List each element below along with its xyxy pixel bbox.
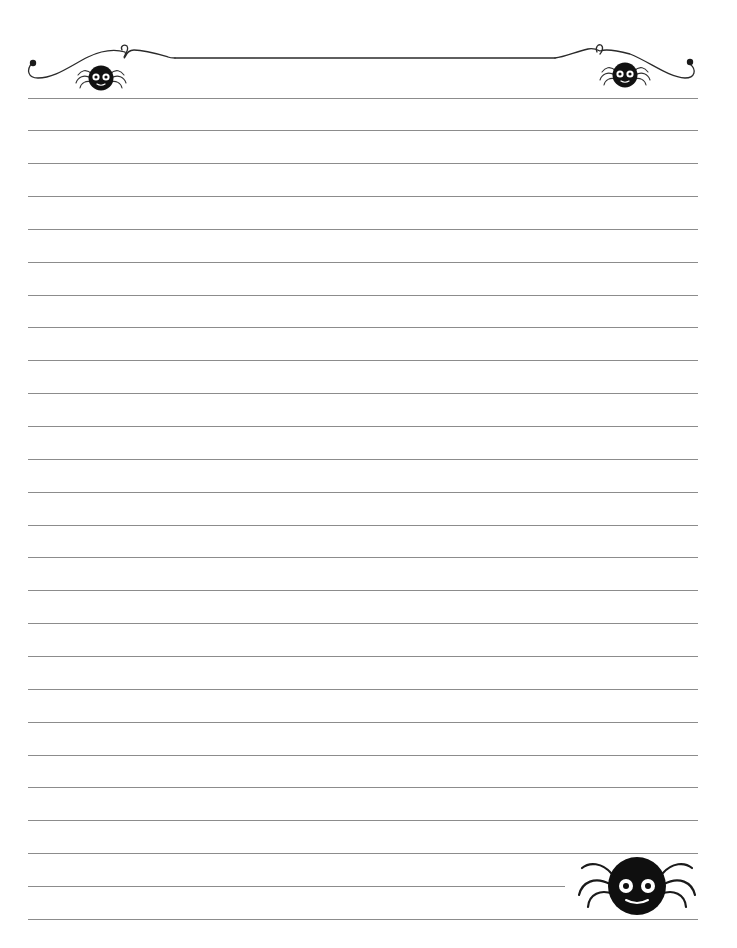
large-spider-icon	[577, 857, 697, 915]
right-curl-dot	[687, 59, 693, 65]
left-curl-dot	[30, 60, 36, 66]
decorations-layer	[0, 0, 737, 948]
spider-icon	[600, 63, 650, 88]
lined-paper-page	[0, 0, 737, 948]
header-flourish-border	[29, 45, 695, 78]
spider-icon	[76, 66, 126, 91]
